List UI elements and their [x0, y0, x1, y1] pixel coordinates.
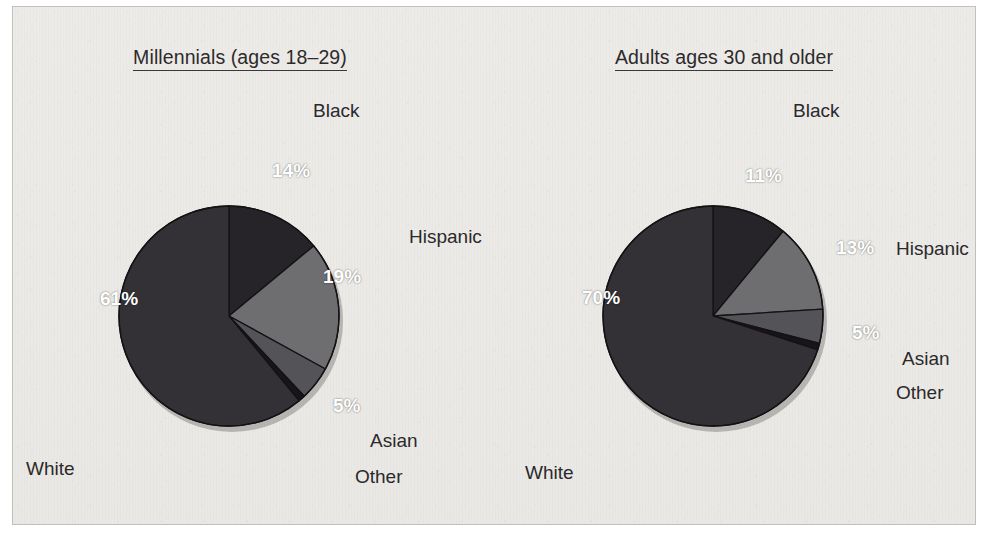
- pie-category-label-asian: Asian: [902, 348, 950, 370]
- pie-category-label-hispanic: Hispanic: [409, 226, 482, 248]
- pie-category-label-black: Black: [313, 100, 359, 122]
- pie-category-label-black: Black: [793, 100, 839, 122]
- pie-category-label-asian: Asian: [370, 430, 418, 452]
- pie-percent-label-hispanic: 13%: [836, 237, 874, 259]
- scanned-page: Millennials (ages 18–29) 14%Black19%Hisp…: [0, 0, 1005, 551]
- pie-percent-label-asian: 5%: [333, 395, 360, 417]
- pie-panel-millennials: Millennials (ages 18–29) 14%Black19%Hisp…: [0, 0, 480, 519]
- pie-category-label-other: Other: [896, 382, 944, 404]
- pie-category-label-white: White: [26, 458, 75, 480]
- pie-chart-millennials: 14%Black19%Hispanic5%AsianOther61%White: [0, 0, 480, 519]
- pie-category-label-hispanic: Hispanic: [896, 238, 969, 260]
- pie-svg-adults30plus: [484, 0, 964, 519]
- pie-category-label-other: Other: [355, 466, 403, 488]
- pie-category-label-white: White: [525, 462, 574, 484]
- pie-percent-label-asian: 5%: [852, 322, 879, 344]
- pie-percent-label-white: 61%: [100, 288, 138, 310]
- pie-percent-label-black: 14%: [272, 160, 310, 182]
- pie-chart-adults30plus: 11%Black13%Hispanic5%AsianOther70%White: [484, 0, 964, 519]
- pie-percent-label-white: 70%: [582, 287, 620, 309]
- pie-panel-adults30plus: Adults ages 30 and older 11%Black13%Hisp…: [484, 0, 964, 519]
- pie-percent-label-black: 11%: [745, 165, 782, 187]
- pie-percent-label-hispanic: 19%: [323, 266, 361, 288]
